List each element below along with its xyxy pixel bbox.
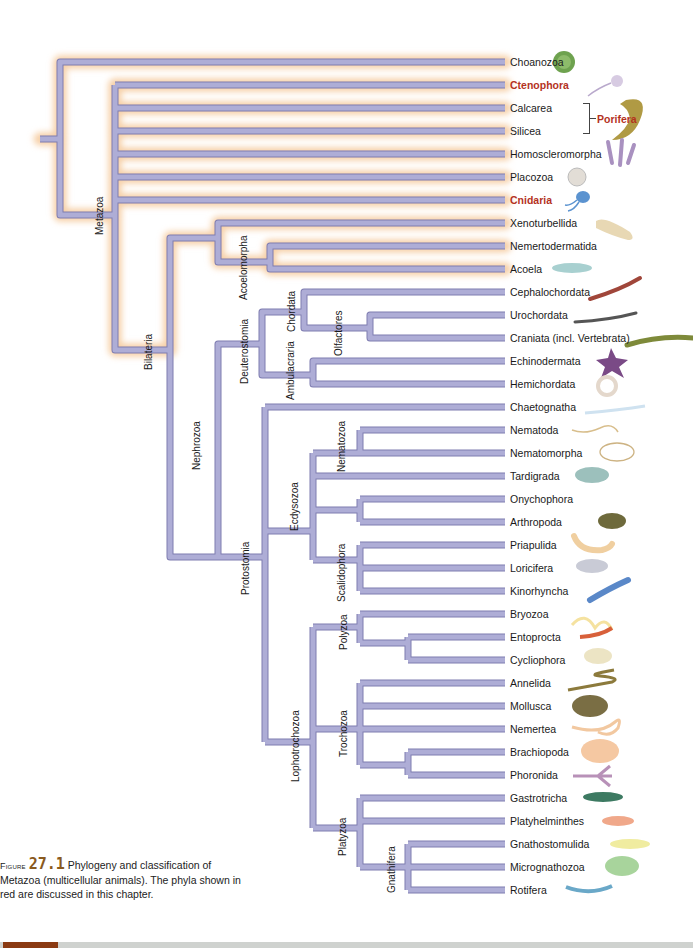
chaetognatha-illustration: [585, 406, 645, 413]
clade-label-bilateria: Bilateria: [143, 334, 154, 370]
taxon-label: Rotifera: [510, 884, 547, 896]
clade-label-nematozoa: Nematozoa: [336, 421, 347, 472]
taxon-label: Gnathostomulida: [510, 838, 589, 850]
clade-label-ambulacraria: Ambulacraria: [285, 341, 296, 400]
taxon-label: Nemertea: [510, 723, 556, 735]
porifera-bracket-tick: [590, 118, 596, 119]
taxon-label: Annelida: [510, 677, 551, 689]
porifera-label: Porifera: [597, 113, 637, 125]
phoronida-illustration: [573, 766, 612, 786]
tardigrada-illustration: [575, 467, 609, 483]
taxon-label: Bryozoa: [510, 608, 549, 620]
cnidaria-illustration: [565, 191, 590, 211]
clade-label-nephrozoa: Nephrozoa: [191, 421, 202, 470]
tree-branch: [60, 139, 115, 215]
taxon-label: Cycliophora: [510, 654, 565, 666]
kinorhyncha-illustration: [590, 580, 628, 600]
taxon-label: Choanozoa: [510, 56, 564, 68]
brachiopoda-illustration: [581, 739, 619, 763]
taxon-label: Xenoturbellida: [510, 217, 577, 229]
figure-caption: Figure 27.1 Phylogeny and classification…: [0, 857, 250, 901]
taxon-label: Onychophora: [510, 493, 573, 505]
tree-branch: [313, 361, 505, 384]
taxon-label: Hemichordata: [510, 378, 575, 390]
taxon-label: Cnidaria: [510, 194, 552, 206]
taxon-label: Urochordata: [510, 309, 568, 321]
nematoda-illustration: [572, 426, 618, 432]
echinodermata-illustration: [596, 348, 628, 378]
figure-label: Figure: [0, 861, 26, 871]
clade-label-trochozoa: Trochozoa: [338, 710, 349, 757]
homoscleromorpha-illustration: [608, 140, 634, 165]
taxon-label: Phoronida: [510, 769, 558, 781]
taxon-label: Loricifera: [510, 562, 553, 574]
taxon-label: Nematoda: [510, 424, 558, 436]
porifera-bracket: [583, 103, 590, 134]
glow-branch: [115, 85, 505, 200]
taxon-label: Entoprocta: [510, 631, 561, 643]
figure-number: 27.1: [29, 855, 65, 873]
entoprocta-illustration: [580, 628, 612, 637]
taxon-label: Arthropoda: [510, 516, 562, 528]
platyhelminthes-illustration: [602, 816, 634, 826]
placozoa-illustration: [568, 168, 586, 186]
hemichordata-illustration: [598, 377, 616, 395]
clade-label-scalidophora: Scalidophora: [336, 544, 347, 602]
tree-branch: [265, 627, 313, 828]
taxon-label: Mollusca: [510, 700, 551, 712]
clade-label-deuterostomia: Deuterostomia: [239, 319, 250, 384]
nemertea-illustration: [572, 720, 619, 734]
taxon-label: Nematomorpha: [510, 447, 582, 459]
clade-label-polyzoa: Polyzoa: [338, 614, 349, 650]
clade-label-olfactores: Olfactores: [333, 310, 344, 356]
clade-label-lophotrochozoa: Lophotrochozoa: [290, 710, 301, 782]
taxon-label: Ctenophora: [510, 79, 569, 91]
clade-label-chordata: Chordata: [286, 291, 297, 332]
gnathostomulida-illustration: [610, 839, 650, 849]
micrognathozoa-illustration: [605, 856, 639, 876]
nematomorpha-illustration: [600, 443, 634, 461]
bryozoa-illustration: [572, 618, 612, 630]
taxon-label: Nemertodermatida: [510, 240, 597, 252]
clade-label-metazoa: Metazoa: [94, 197, 105, 235]
taxon-label: Priapulida: [510, 539, 557, 551]
glow-branch: [60, 139, 115, 215]
taxon-label: Acoela: [510, 263, 542, 275]
mollusca-illustration: [572, 695, 608, 717]
annelida-illustration: [568, 670, 615, 690]
urochordata-illustration: [575, 313, 636, 322]
page-footer-tab: [3, 942, 58, 948]
taxon-label: Tardigrada: [510, 470, 560, 482]
xenoturbellida-illustration: [596, 219, 633, 240]
ctenophora-illustration: [588, 75, 623, 96]
taxon-label: Gastrotricha: [510, 792, 567, 804]
taxon-label: Calcarea: [510, 102, 552, 114]
phylogenetic-tree: [0, 0, 693, 948]
taxon-label: Brachiopoda: [510, 746, 569, 758]
clade-label-acoelomorpha: Acoelomorpha: [238, 236, 249, 300]
loricifera-illustration: [576, 559, 608, 573]
taxon-label: Silicea: [510, 125, 541, 137]
cycliophora-illustration: [584, 648, 612, 664]
cephalochordata-illustration: [590, 278, 640, 299]
organism-illustrations: [552, 51, 693, 891]
priapulida-illustration: [574, 536, 612, 550]
arthropoda-illustration: [598, 513, 626, 529]
taxon-label: Craniata (incl. Vertebrata): [510, 332, 630, 344]
clade-label-protostomia: Protostomia: [240, 542, 251, 595]
taxon-label: Platyhelminthes: [510, 815, 584, 827]
tree-branch: [265, 627, 313, 828]
gastrotricha-illustration: [583, 792, 623, 802]
taxon-label: Kinorhyncha: [510, 585, 568, 597]
acoela-illustration: [552, 263, 592, 273]
taxon-label: Cephalochordata: [510, 286, 590, 298]
craniata-illustration: [627, 337, 693, 345]
clade-label-platyzoa: Platyzoa: [337, 818, 348, 856]
taxon-label: Placozoa: [510, 171, 553, 183]
rotifera-illustration: [566, 886, 612, 891]
taxon-label: Homoscleromorpha: [510, 148, 602, 160]
clade-label-gnathifera: Gnathifera: [386, 846, 397, 893]
clade-label-ecdysozoa: Ecdysozoa: [289, 482, 300, 531]
taxon-label: Chaetognatha: [510, 401, 576, 413]
taxon-label: Echinodermata: [510, 355, 581, 367]
